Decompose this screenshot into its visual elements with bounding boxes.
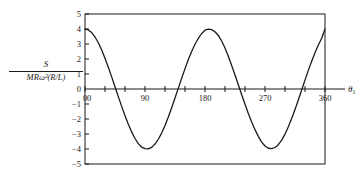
x-axis-origin-label: 0	[87, 93, 91, 103]
figure-container: S MRω²(R/L) 0901802703600543210−1−2−3−4−…	[0, 0, 360, 180]
y-axis-tick-label: 4	[77, 24, 82, 34]
x-axis-tick-label: 270	[259, 93, 272, 103]
chart-svg: 0901802703600543210−1−2−3−4−5θ1	[0, 0, 360, 180]
y-axis-tick-label: 1	[77, 69, 81, 79]
y-axis-tick-label: 0	[77, 84, 81, 94]
x-axis-tick-label: 360	[319, 93, 332, 103]
x-axis-tick-label: 90	[141, 93, 150, 103]
y-axis-tick-label: 2	[77, 54, 81, 64]
y-axis-tick-label: −2	[72, 114, 81, 124]
y-axis-tick-label: −3	[72, 129, 81, 139]
x-axis-name: θ1	[348, 84, 355, 95]
y-axis-tick-label: 5	[77, 9, 81, 19]
y-axis-tick-label: 3	[77, 39, 81, 49]
y-axis-tick-label: −1	[72, 99, 81, 109]
y-axis-tick-label: −5	[72, 159, 81, 169]
x-axis-tick-label: 180	[199, 93, 212, 103]
y-axis-tick-label: −4	[72, 144, 82, 154]
